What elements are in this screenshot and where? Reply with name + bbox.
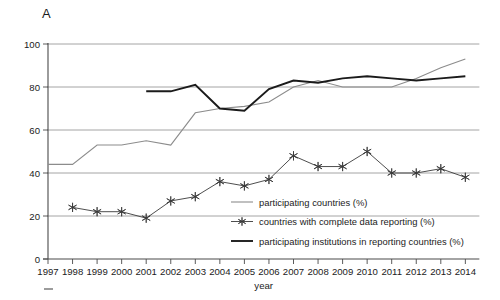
series-1-marker-2013 bbox=[437, 164, 445, 173]
y-tick-label-40: 40 bbox=[29, 168, 40, 179]
line-chart: 020406080100 199719981999200020012002200… bbox=[0, 0, 500, 300]
x-tick-label-2009: 2009 bbox=[332, 266, 353, 277]
figure-panel-a: A 020406080100 1997199819992000200120022… bbox=[0, 0, 500, 300]
y-tick-label-80: 80 bbox=[29, 82, 40, 93]
x-tick-label-2005: 2005 bbox=[234, 266, 255, 277]
series-1-marker-2001 bbox=[142, 214, 150, 223]
series-1-marker-2002 bbox=[167, 196, 175, 205]
x-tick-label-2004: 2004 bbox=[209, 266, 231, 277]
y-tick-label-20: 20 bbox=[29, 211, 40, 222]
x-tick-label-2006: 2006 bbox=[258, 266, 279, 277]
series-1-marker-1998 bbox=[69, 203, 77, 212]
x-tick-label-2013: 2013 bbox=[430, 266, 451, 277]
x-tick-label-1998: 1998 bbox=[62, 266, 83, 277]
x-tick-label-1999: 1999 bbox=[86, 266, 107, 277]
x-axis-ticks: 1997199819992000200120022003200420052006… bbox=[37, 259, 476, 277]
x-tick-label-2007: 2007 bbox=[283, 266, 304, 277]
y-tick-label-100: 100 bbox=[24, 39, 40, 50]
x-tick-label-2003: 2003 bbox=[185, 266, 206, 277]
series-line-1 bbox=[73, 152, 466, 219]
chart-legend: participating countries (%)countries wit… bbox=[231, 197, 464, 247]
series-1-marker-2004 bbox=[216, 177, 224, 186]
x-tick-label-2010: 2010 bbox=[356, 266, 377, 277]
series-1-marker-2014 bbox=[461, 173, 469, 182]
panel-b-label-stub bbox=[44, 288, 53, 290]
x-tick-label-2012: 2012 bbox=[406, 266, 427, 277]
x-tick-label-2011: 2011 bbox=[381, 266, 402, 277]
x-axis-title-text: year bbox=[254, 280, 273, 291]
x-tick-label-2002: 2002 bbox=[160, 266, 181, 277]
series-line-0 bbox=[48, 59, 465, 164]
series-1-marker-2010 bbox=[363, 147, 371, 156]
x-tick-label-2001: 2001 bbox=[136, 266, 157, 277]
legend-label-2: participating institutions in reporting … bbox=[259, 236, 464, 247]
gridlines bbox=[47, 44, 479, 216]
y-axis-ticks: 020406080100 bbox=[24, 39, 48, 265]
series-1-marker-2005 bbox=[240, 181, 248, 190]
legend-label-1: countries with complete data reporting (… bbox=[259, 216, 435, 227]
x-axis-title: year bbox=[254, 280, 273, 291]
legend-label-0: participating countries (%) bbox=[259, 197, 367, 208]
series-1-marker-2003 bbox=[191, 192, 199, 201]
y-tick-label-0: 0 bbox=[35, 254, 40, 265]
series-line-2 bbox=[146, 76, 465, 110]
x-tick-label-2014: 2014 bbox=[455, 266, 477, 277]
x-tick-label-2000: 2000 bbox=[111, 266, 132, 277]
y-tick-label-60: 60 bbox=[29, 125, 40, 136]
x-tick-label-2008: 2008 bbox=[307, 266, 328, 277]
x-tick-label-1997: 1997 bbox=[37, 266, 58, 277]
